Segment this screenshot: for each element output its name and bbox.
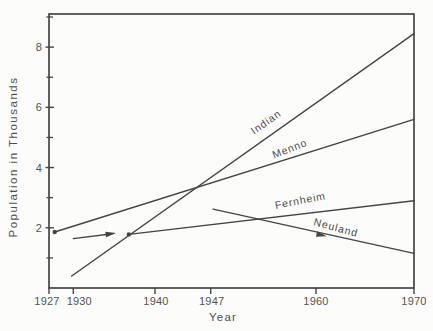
population-growth-figure: 1927193019401947196019702468IndianMennoF…	[0, 0, 433, 331]
data-point-dot-fernheim	[127, 232, 131, 236]
series-label-fernheim: Fernheim	[274, 189, 327, 211]
data-point-dot-menno	[52, 230, 56, 234]
x-axis-tick-label-1970: 1970	[401, 295, 426, 307]
x-axis-tick-label-1960: 1960	[303, 295, 328, 307]
y-axis-tick-label-6: 6	[36, 101, 42, 113]
population-chart-canvas: 1927193019401947196019702468IndianMennoF…	[0, 0, 433, 331]
x-axis-tick-label-1930: 1930	[67, 295, 92, 307]
x-axis-tick-label-1947: 1947	[199, 295, 224, 307]
y-axis-tick-label-4: 4	[36, 162, 42, 174]
x-axis-tick-label-1940: 1940	[143, 295, 168, 307]
series-line-neuland	[213, 209, 414, 253]
direction-arrow-fernheim	[105, 230, 116, 237]
series-line-menno	[55, 119, 414, 232]
plot-frame	[49, 14, 414, 288]
y-axis-tick-label-8: 8	[36, 41, 42, 53]
series-line-indian	[72, 34, 414, 276]
series-label-menno: Menno	[270, 136, 308, 160]
x-axis-tick-label-1927: 1927	[34, 295, 59, 307]
y-axis-tick-label-2: 2	[36, 222, 42, 234]
x-axis-title: Year	[209, 311, 237, 323]
y-axis-title: Population in Thousands	[7, 77, 19, 238]
series-label-indian: Indian	[248, 107, 283, 136]
